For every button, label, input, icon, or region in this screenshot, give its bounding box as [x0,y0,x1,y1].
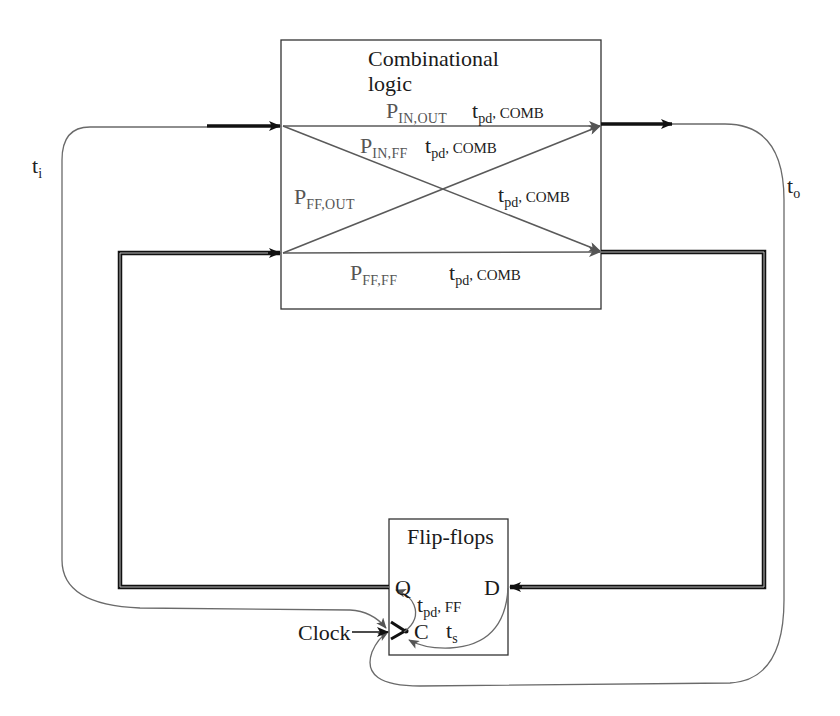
ff-pin-q: Q [395,577,411,599]
t-tail: , COMB [518,189,570,205]
t-subscript: pd [504,195,518,210]
label-ti: ti [32,155,42,181]
feedback-wire-d [510,252,764,587]
comb-title-line2: logic [368,73,412,95]
feedback-wire-q-inner [120,253,389,587]
p-letter: P [386,98,398,123]
combinational-logic-block [281,40,601,309]
feedback-wire-d-inner [522,252,764,587]
p-subscript: IN,OUT [398,111,447,126]
t-tail: , FF [437,599,461,615]
p-subscript: IN,FF [372,146,407,161]
t-subscript: i [38,166,42,181]
t-subscript: pd [455,273,469,288]
clock-triangle-icon [391,622,405,639]
t-tail: , COMB [445,140,497,156]
t-subscript: s [452,631,457,646]
feedback-wire-q [120,253,389,587]
label-p-in-out: PIN,OUT [386,100,447,126]
t-tail: , COMB [492,105,544,121]
ff-pin-d: D [484,577,500,599]
t-subscript: o [793,186,800,201]
path-ff-ff [283,252,600,253]
p-letter: P [294,184,306,209]
clock-label: Clock [298,622,351,644]
t-subscript: pd [423,605,437,620]
p-letter: P [350,260,362,285]
label-tpd-comb-3: tpd, COMB [498,184,570,210]
p-subscript: FF,OUT [306,197,355,212]
p-letter: P [360,133,372,158]
label-p-ff-ff: PFF,FF [350,262,397,288]
label-to: to [787,175,800,201]
t-tail: , COMB [469,267,521,283]
label-tpd-comb-1: tpd, COMB [472,100,544,126]
ff-title: Flip-flops [407,526,494,548]
comb-title-line1: Combinational [368,48,499,70]
ff-pin-c: C [414,621,429,643]
t-subscript: pd [478,111,492,126]
label-tpd-comb-4: tpd, COMB [449,262,521,288]
label-p-ff-out: PFF,OUT [294,186,355,212]
label-tpd-ff: tpd, FF [417,594,461,620]
label-tpd-comb-2: tpd, COMB [425,135,497,161]
p-subscript: FF,FF [362,273,397,288]
label-p-in-ff: PIN,FF [360,135,408,161]
t-subscript: pd [431,146,445,161]
label-ts: ts [446,620,458,646]
